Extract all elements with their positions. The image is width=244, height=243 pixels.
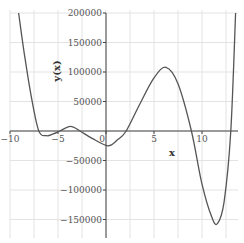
x-tick-label: −5 [51,134,65,144]
x-tick-label: 10 [196,134,208,144]
y-tick-label: 150000 [68,38,103,48]
y-axis-label: y(x) [51,60,62,82]
y-tick-label: −50000 [66,156,102,166]
x-tick-label: 5 [151,134,157,144]
x-tick-label: −10 [1,134,20,144]
grid-lines [10,10,238,238]
curve-y-of-x [19,13,236,224]
axes [10,13,238,238]
x-axis-label: x [169,147,176,158]
function-plot: −10−5051020000015000010000050000−50000−1… [0,0,244,243]
y-tick-label: 200000 [68,8,103,18]
y-tick-label: −100000 [60,185,102,195]
tick-labels: −10−5051020000015000010000050000−50000−1… [1,8,208,225]
y-tick-label: −150000 [60,215,102,225]
y-tick-label: 100000 [68,67,103,77]
y-tick-label: 50000 [73,97,102,107]
